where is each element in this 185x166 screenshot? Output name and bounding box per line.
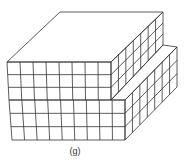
lower-front-face-col-line bbox=[73, 100, 74, 140]
upper-front-face-col-line bbox=[33, 62, 35, 100]
lower-front-face-col-line bbox=[22, 100, 25, 140]
upper-front-face-col-line bbox=[46, 62, 47, 100]
upper-front-face-col-line bbox=[59, 62, 60, 100]
upper-front-face-col-line bbox=[20, 62, 22, 100]
lower-front-face-outline bbox=[9, 100, 125, 140]
figure-caption: (g) bbox=[0, 146, 150, 156]
upper-front-face-col-line bbox=[72, 62, 73, 100]
lower-front-face-col-line bbox=[48, 100, 50, 140]
lower-front-face-col-line bbox=[61, 100, 63, 140]
lower-front-face-col-line bbox=[99, 100, 100, 140]
upper-front-face-col-line bbox=[85, 62, 86, 100]
block-diagram bbox=[0, 0, 185, 166]
lower-front-face-col-line bbox=[86, 100, 87, 140]
top-face bbox=[7, 12, 163, 62]
lower-front-face-col-line bbox=[35, 100, 37, 140]
